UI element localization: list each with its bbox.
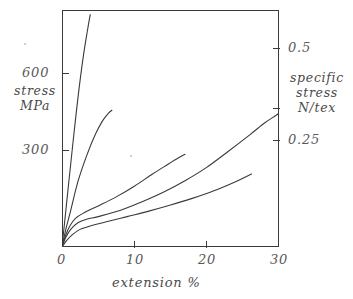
y-left-axis-title-line2: MPa [10,98,60,113]
y-right-axis-title-line2: stress [285,85,349,100]
x-tick-label-0: 0 [57,252,66,267]
scan-speck [24,43,26,45]
curve-curve-3 [62,154,185,247]
curve-layer [62,10,279,247]
curve-curve-5-lowest [62,174,252,247]
tick-left-300 [62,150,69,151]
y-right-tick-label-05: 0.5 [288,40,311,55]
y-right-axis-title: specific stress N/tex [285,70,349,115]
y-left-tick-label-600: 600 [22,65,49,80]
x-tick-label-10: 10 [126,252,144,267]
curve-curve-4 [62,113,279,247]
chart-figure: 600 300 stress MPa 0.5 0.25 specific str… [0,0,353,299]
y-left-axis-title-line1: stress [10,83,60,98]
y-left-tick-label-300: 300 [22,142,49,157]
x-axis-title: extension % [112,275,201,290]
scan-speck [130,155,132,157]
y-right-axis-title-line1: specific [285,70,349,85]
y-right-axis-title-line3: N/tex [285,100,349,115]
x-tick-label-30: 30 [270,252,288,267]
y-right-tick-label-025: 0.25 [288,132,320,147]
tick-bottom-20 [206,241,207,248]
x-tick-label-20: 20 [198,252,216,267]
tick-right-025 [273,140,280,141]
tick-right-05 [273,48,280,49]
y-left-axis-title: stress MPa [10,83,60,113]
tick-bottom-10 [134,241,135,248]
tick-right-mid [273,108,280,109]
tick-left-600 [62,73,69,74]
